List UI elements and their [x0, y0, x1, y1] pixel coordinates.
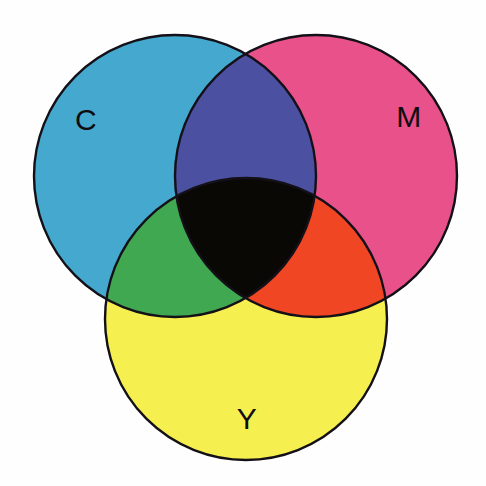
venn-diagram-canvas: C M Y: [0, 0, 486, 486]
venn-diagram-svg: C M Y: [0, 0, 486, 486]
set-label-yellow: Y: [237, 402, 258, 435]
set-label-magenta: M: [396, 100, 422, 133]
set-label-cyan: C: [75, 103, 97, 136]
